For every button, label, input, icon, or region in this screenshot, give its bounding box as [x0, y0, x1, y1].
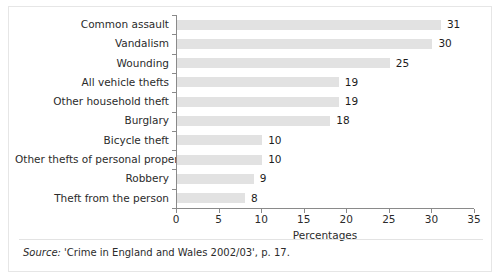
y-axis-tick	[172, 34, 176, 35]
bar-value-label: 8	[251, 192, 258, 204]
category-axis-labels: Common assaultVandalismWoundingAll vehic…	[15, 15, 175, 208]
bar	[177, 97, 339, 107]
bar-value-label: 19	[345, 76, 358, 88]
category-label: Burglary	[15, 111, 175, 130]
bar-value-label: 30	[438, 37, 451, 49]
source-note: Source: 'Crime in England and Wales 2002…	[23, 247, 290, 258]
bar	[177, 39, 432, 49]
footer-divider	[19, 239, 483, 240]
chart-plot-area: Common assaultVandalismWoundingAll vehic…	[9, 7, 493, 273]
category-label: Robbery	[15, 169, 175, 188]
bar-series: 313025191918101098	[177, 15, 477, 208]
category-label: Bicycle theft	[15, 131, 175, 150]
y-axis-tick	[172, 189, 176, 190]
bar-value-label: 10	[268, 134, 281, 146]
bar	[177, 155, 262, 165]
figure-frame: Common assaultVandalismWoundingAll vehic…	[8, 6, 492, 272]
x-axis-tick-label: 35	[467, 213, 480, 225]
bar	[177, 174, 254, 184]
bar-row: 9	[177, 169, 477, 188]
bar	[177, 77, 339, 87]
x-axis-tick-label: 5	[215, 213, 222, 225]
bar-row: 25	[177, 54, 477, 73]
bar-value-label: 31	[447, 18, 460, 30]
x-axis-tick-label: 30	[425, 213, 438, 225]
bar-value-label: 25	[396, 57, 409, 69]
x-axis-tick-label: 0	[173, 213, 180, 225]
x-axis-tick-label: 15	[297, 213, 310, 225]
bar-value-label: 9	[260, 172, 267, 184]
bar-row: 31	[177, 15, 477, 34]
bar-value-label: 10	[268, 153, 281, 165]
y-axis-tick	[172, 150, 176, 151]
bar	[177, 193, 245, 203]
x-axis-tick-label: 10	[254, 213, 267, 225]
bar	[177, 135, 262, 145]
y-axis-tick	[172, 112, 176, 113]
category-label: Other household theft	[15, 92, 175, 111]
y-axis-tick	[172, 92, 176, 93]
category-label: Vandalism	[15, 34, 175, 53]
bar-row: 19	[177, 73, 477, 92]
bar-value-label: 19	[345, 95, 358, 107]
source-label: Source:	[23, 247, 61, 258]
category-label: Other thefts of personal property	[15, 150, 175, 169]
y-axis-tick	[172, 73, 176, 74]
category-label: All vehicle thefts	[15, 73, 175, 92]
source-citation: 'Crime in England and Wales 2002/03', p.…	[61, 247, 290, 258]
bar	[177, 116, 330, 126]
x-axis-line	[176, 208, 474, 209]
y-axis-tick	[172, 131, 176, 132]
category-label: Common assault	[15, 15, 175, 34]
bar-row: 10	[177, 150, 477, 169]
bar-row: 30	[177, 34, 477, 53]
x-axis-tick-label: 20	[340, 213, 353, 225]
bar-value-label: 18	[336, 114, 349, 126]
bar	[177, 58, 390, 68]
y-axis-tick	[172, 169, 176, 170]
bar-row: 8	[177, 189, 477, 208]
bar-row: 18	[177, 111, 477, 130]
y-axis-tick	[172, 54, 176, 55]
y-axis-tick	[172, 15, 176, 16]
bar	[177, 20, 441, 30]
category-label: Theft from the person	[15, 189, 175, 208]
x-axis-tick-label: 25	[382, 213, 395, 225]
bar-row: 19	[177, 92, 477, 111]
category-label: Wounding	[15, 54, 175, 73]
bar-row: 10	[177, 131, 477, 150]
